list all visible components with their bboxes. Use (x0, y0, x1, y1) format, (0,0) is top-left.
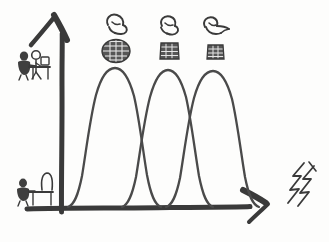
bell-curve-1 (68, 68, 161, 207)
diagram-canvas: Hand-drawn sketch of three overlapping b… (0, 0, 329, 242)
person-at-desk-alone-icon (17, 173, 53, 206)
large-money-pile-icon (102, 40, 130, 63)
peak-marker-3 (204, 17, 229, 59)
peak-marker-1 (102, 15, 130, 63)
bell-curves (68, 68, 259, 207)
peak-marker-2 (160, 16, 179, 59)
lightning-bolt-icon (288, 162, 316, 206)
drooping-arm-weak-icon (204, 17, 229, 34)
bell-curve-3 (166, 71, 259, 207)
small-money-pile-icon (207, 45, 224, 59)
flexed-bicep-strong-icon (107, 15, 127, 34)
bell-curve-2 (122, 70, 213, 207)
vertical-axis (31, 15, 67, 212)
person-at-desk-with-colleague-icon (18, 51, 50, 80)
medium-money-pile-icon (160, 43, 179, 59)
sketch-svg (0, 0, 329, 242)
flexed-bicep-medium-icon (161, 16, 178, 34)
